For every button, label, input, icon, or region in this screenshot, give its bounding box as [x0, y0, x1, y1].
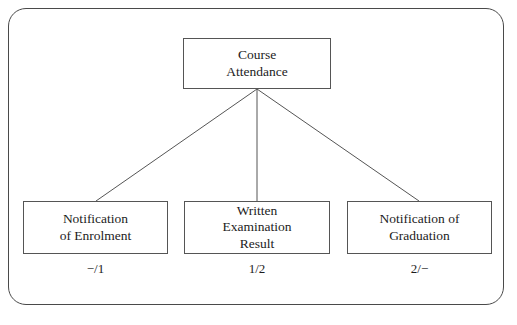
node-course-attendance-label: Course Attendance [222, 47, 291, 80]
node-notification-of-graduation[interactable]: Notification of Graduation [347, 201, 492, 254]
diagram-figure: Course Attendance Notification of Enrolm… [0, 0, 517, 325]
node-written-examination-result-label: Written Examination Result [219, 203, 296, 252]
annotation-notification-of-enrolment: −/1 [23, 262, 168, 275]
node-course-attendance[interactable]: Course Attendance [183, 38, 331, 89]
annotation-written-examination-result: 1/2 [184, 262, 330, 275]
connector-root-to-enrolment [96, 89, 257, 201]
node-notification-of-enrolment-label: Notification of Enrolment [56, 211, 136, 244]
node-notification-of-enrolment[interactable]: Notification of Enrolment [23, 201, 168, 254]
node-notification-of-graduation-label: Notification of Graduation [376, 211, 464, 244]
node-written-examination-result[interactable]: Written Examination Result [184, 201, 330, 254]
annotation-notification-of-graduation: 2/− [347, 262, 492, 275]
connector-root-to-graduation [257, 89, 419, 201]
